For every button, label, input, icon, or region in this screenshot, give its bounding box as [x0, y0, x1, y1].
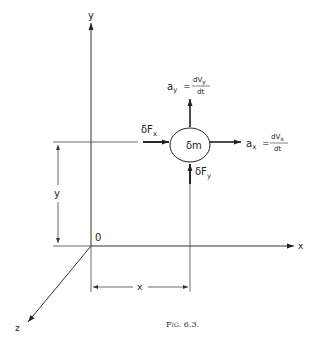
- acceleration-ay: ay = dVy dt: [167, 76, 210, 127]
- y-axis-label: y: [88, 10, 94, 21]
- dimension-y: y: [54, 145, 60, 243]
- svg-text:ax: ax: [246, 138, 256, 151]
- y-axis: y: [88, 10, 94, 246]
- figure-caption: Fig. 6.3.: [166, 320, 199, 329]
- ax-lhs-sub: x: [252, 143, 256, 151]
- dimension-x-label: x: [137, 282, 143, 292]
- free-body-diagram: y x z 0 y x δm δFx δFy: [0, 0, 316, 348]
- mass-label: δm: [186, 140, 202, 151]
- fy-label: δF: [195, 166, 207, 177]
- svg-text:dVx: dVx: [271, 133, 284, 142]
- z-axis-label: z: [15, 323, 20, 333]
- ax-numerator-sub: x: [280, 135, 284, 142]
- dimension-x: x: [93, 282, 188, 292]
- svg-text:=: =: [262, 138, 270, 148]
- fx-subscript: x: [153, 130, 157, 138]
- ay-numerator-sub: y: [202, 78, 206, 86]
- mass-element: δm: [170, 128, 210, 162]
- force-fy: δFy: [190, 164, 211, 184]
- origin-label: 0: [95, 232, 101, 243]
- z-axis: z: [15, 246, 91, 333]
- svg-text:δFy: δFy: [195, 166, 211, 180]
- ay-denominator: dt: [197, 88, 204, 96]
- dimension-y-label: y: [54, 188, 60, 199]
- svg-text:=: =: [183, 81, 191, 91]
- force-fx: δFx: [141, 124, 169, 142]
- x-axis-label: x: [298, 241, 304, 251]
- acceleration-ax: ax = dVx dt: [210, 133, 288, 153]
- svg-text:δFx: δFx: [141, 124, 157, 138]
- ay-lhs-sub: y: [173, 86, 177, 94]
- ax-numerator: dV: [271, 133, 280, 141]
- fy-subscript: y: [207, 172, 211, 180]
- svg-text:dVy: dVy: [193, 76, 206, 86]
- ay-numerator: dV: [193, 76, 202, 84]
- ax-denominator: dt: [274, 145, 281, 153]
- svg-text:ay: ay: [167, 81, 177, 94]
- fx-label: δF: [141, 124, 153, 135]
- x-axis: x: [91, 241, 304, 251]
